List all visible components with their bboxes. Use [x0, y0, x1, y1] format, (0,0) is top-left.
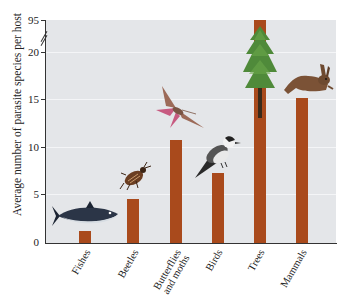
- y-tick-label-5: 5: [10, 189, 39, 200]
- y-tick-95: [41, 20, 46, 21]
- bird-icon: [193, 130, 243, 180]
- rabbit-icon: [282, 62, 334, 98]
- beetle-icon: [118, 161, 152, 191]
- gridline-20: [46, 52, 336, 53]
- bar-birds: [212, 173, 224, 243]
- y-tick-label-20: 20: [10, 47, 39, 58]
- conifer-tree-icon: [242, 26, 278, 118]
- gridline-5: [46, 194, 336, 195]
- bar-beetles: [127, 199, 139, 243]
- x-label-mammals: Mammals: [279, 248, 309, 289]
- x-axis: [45, 243, 337, 244]
- x-label-fishes: Fishes: [71, 248, 93, 276]
- y-tick-15: [41, 99, 46, 100]
- bar-mammals: [296, 98, 308, 243]
- y-tick-label-0: 0: [10, 237, 39, 248]
- gridline-10: [46, 147, 336, 148]
- moth-icon: [156, 84, 208, 136]
- x-label-butterflies-and-moths: Butterflies and moths: [152, 248, 191, 296]
- x-label-birds: Birds: [205, 248, 225, 273]
- y-tick-5: [41, 194, 46, 195]
- y-tick-20: [41, 52, 46, 53]
- tuna-fish-icon: [50, 200, 122, 232]
- parasite-species-bar-chart: Average number of parasite species per h…: [0, 0, 346, 307]
- y-axis: [45, 20, 46, 244]
- y-tick-label-10: 10: [10, 142, 39, 153]
- x-label-trees: Trees: [247, 248, 267, 273]
- x-label-beetles: Beetles: [117, 248, 141, 280]
- bar-butterflies-and-moths: [170, 140, 182, 243]
- bar-fishes: [79, 231, 91, 243]
- y-tick-label-15: 15: [10, 94, 39, 105]
- y-tick-10: [41, 147, 46, 148]
- y-tick-label-95: 95: [10, 15, 39, 26]
